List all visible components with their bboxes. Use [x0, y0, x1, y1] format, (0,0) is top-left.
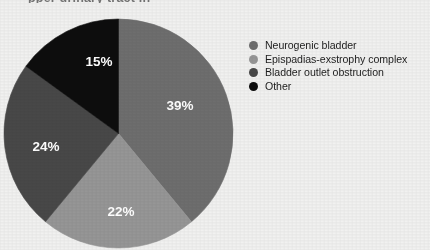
legend-item-label: Bladder outlet obstruction	[265, 66, 384, 79]
legend-item: Bladder outlet obstruction	[249, 66, 430, 79]
figure-title-cropped: pper urinary tract in	[28, 0, 228, 3]
chart-legend: Neurogenic bladderEpispadias-exstrophy c…	[249, 39, 430, 93]
legend-item: Epispadias-exstrophy complex	[249, 53, 430, 66]
pie-chart-plot-area: 39%22%24%15%	[3, 18, 234, 249]
legend-swatch-circle-icon	[249, 41, 258, 50]
pie-svg: 39%22%24%15%	[3, 18, 234, 249]
legend-item: Other	[249, 80, 430, 93]
legend-swatch-circle-icon	[249, 68, 258, 77]
pie-slice-label: 24%	[32, 139, 59, 154]
legend-swatch-circle-icon	[249, 55, 258, 64]
legend-item: Neurogenic bladder	[249, 39, 430, 52]
legend-item-label: Neurogenic bladder	[265, 39, 357, 52]
pie-chart-figure: pper urinary tract in 39%22%24%15% Neuro…	[0, 0, 430, 250]
pie-slice-label: 39%	[166, 98, 193, 113]
pie-slice-label: 15%	[85, 54, 112, 69]
legend-item-label: Other	[265, 80, 291, 93]
legend-item-label: Epispadias-exstrophy complex	[265, 53, 407, 66]
legend-swatch-circle-icon	[249, 82, 258, 91]
pie-slice-label: 22%	[107, 204, 134, 219]
